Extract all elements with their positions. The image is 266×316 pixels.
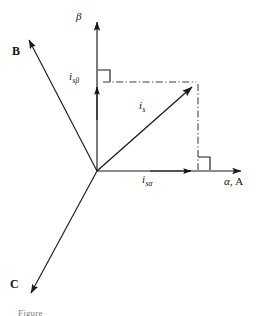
phase-c-axis-line bbox=[31, 171, 97, 293]
is-beta-subscript: sβ bbox=[73, 76, 80, 85]
right-angle-beta-icon bbox=[98, 70, 110, 82]
is-alpha-subscript: sα bbox=[146, 179, 153, 188]
vector-diagram-canvas bbox=[0, 0, 266, 316]
is-beta-symbol: i bbox=[69, 70, 72, 82]
phasor-diagram-figure: β α, A B C is isα isβ Figure bbox=[0, 0, 266, 316]
is-beta-label: isβ bbox=[69, 71, 79, 82]
figure-caption: Figure bbox=[18, 308, 258, 316]
right-angle-alpha-icon bbox=[198, 157, 210, 170]
phase-b-axis-line bbox=[29, 40, 97, 171]
alpha-axis-phase: A bbox=[235, 175, 243, 187]
beta-axis-label: β bbox=[76, 11, 81, 22]
is-vector-symbol: i bbox=[139, 99, 142, 111]
is-vector-label: is bbox=[139, 100, 145, 111]
alpha-axis-label: α, A bbox=[224, 176, 243, 187]
phase-c-label: C bbox=[10, 278, 19, 290]
is-alpha-symbol: i bbox=[142, 173, 145, 185]
is-alpha-label: isα bbox=[142, 174, 152, 185]
phase-b-label: B bbox=[12, 45, 20, 57]
